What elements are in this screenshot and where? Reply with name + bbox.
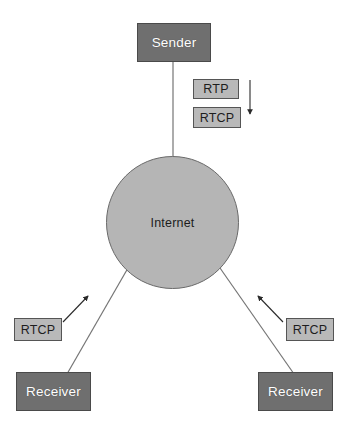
node-sender-label: Sender bbox=[152, 35, 197, 50]
protocol-label-rtcp-right: RTCP bbox=[286, 318, 334, 341]
protocol-label-rtp-text: RTP bbox=[203, 82, 228, 96]
rtp-rtcp-diagram: Sender Internet Receiver Receiver RTP RT… bbox=[0, 0, 348, 431]
protocol-label-rtcp-downstream-text: RTCP bbox=[200, 111, 235, 125]
node-internet-label: Internet bbox=[151, 216, 195, 230]
node-receiver-right[interactable]: Receiver bbox=[258, 372, 333, 411]
link-internet-receiver-right bbox=[220, 268, 294, 374]
node-sender[interactable]: Sender bbox=[137, 23, 211, 62]
link-internet-receiver-left bbox=[67, 268, 128, 374]
protocol-label-rtcp-downstream: RTCP bbox=[193, 107, 241, 128]
protocol-label-rtcp-left-text: RTCP bbox=[21, 323, 56, 337]
node-receiver-left[interactable]: Receiver bbox=[16, 372, 91, 411]
node-internet-cloud[interactable]: Internet bbox=[106, 156, 239, 289]
protocol-label-rtcp-right-text: RTCP bbox=[293, 323, 328, 337]
protocol-label-rtcp-left: RTCP bbox=[14, 318, 62, 341]
node-receiver-right-label: Receiver bbox=[268, 384, 323, 399]
protocol-label-rtp: RTP bbox=[193, 79, 239, 99]
node-receiver-left-label: Receiver bbox=[26, 384, 81, 399]
upstream-arrow-right bbox=[258, 296, 283, 322]
upstream-arrow-left bbox=[63, 296, 88, 322]
